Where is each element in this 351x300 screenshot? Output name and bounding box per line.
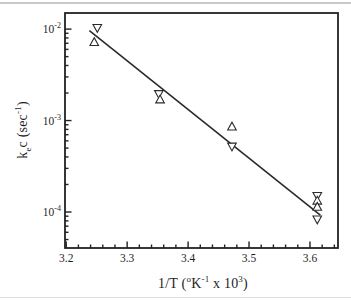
triangle-up-marker — [90, 38, 99, 46]
y-tick-label: 10-3 — [43, 113, 61, 127]
x-tick-label: 3.2 — [59, 252, 74, 264]
bottom-rule-divider — [0, 297, 351, 298]
arrhenius-figure: 3.23.33.43.53.610-210-310-4 kec (sec-1) … — [0, 0, 351, 300]
x-tick-label: 3.4 — [181, 252, 196, 264]
fit-line — [89, 31, 320, 215]
x-axis-label: 1/T (oK-1 x 103) — [158, 274, 248, 292]
axis-ticks — [65, 29, 334, 248]
y-tick-label: 10-4 — [43, 204, 61, 218]
x-tick-label: 3.3 — [120, 252, 135, 264]
axis-tick-labels: 3.23.33.43.53.610-210-310-4 — [43, 21, 318, 264]
y-axis-label: kec (sec-1) — [13, 101, 32, 159]
arrhenius-plot: 3.23.33.43.53.610-210-310-4 — [0, 0, 351, 300]
triangle-down-marker — [93, 25, 102, 33]
triangle-down-marker — [313, 216, 322, 224]
x-tick-label: 3.6 — [303, 252, 318, 264]
triangle-up-marker — [228, 122, 237, 130]
plot-frame — [65, 13, 338, 248]
x-tick-label: 3.5 — [242, 252, 257, 264]
y-tick-label: 10-2 — [43, 21, 61, 35]
